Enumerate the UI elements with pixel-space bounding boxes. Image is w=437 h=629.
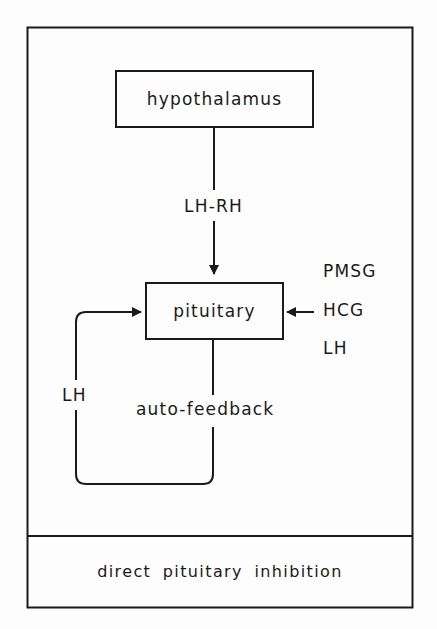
hypothalamus-label: hypothalamus xyxy=(147,91,283,108)
footer-label: direct pituitary inhibition xyxy=(97,564,343,580)
auto-feedback-label: auto-feedback xyxy=(136,401,274,418)
diagram-canvas: hypothalamus LH-RH pituitary PMSG HCG LH… xyxy=(0,0,437,629)
lhrh-label: LH-RH xyxy=(184,198,243,215)
input-label-pmsg: PMSG xyxy=(323,263,377,280)
input-label-lh: LH xyxy=(323,340,348,357)
feedback-loop-lower xyxy=(76,410,213,484)
pituitary-label: pituitary xyxy=(173,303,256,320)
hypothalamus-node: hypothalamus xyxy=(115,70,314,128)
feedback-loop-upper xyxy=(76,312,141,380)
pituitary-node: pituitary xyxy=(145,282,284,340)
input-label-hcg: HCG xyxy=(323,302,364,319)
feedback-lh-label: LH xyxy=(62,387,87,404)
footer-section: direct pituitary inhibition xyxy=(27,536,413,608)
